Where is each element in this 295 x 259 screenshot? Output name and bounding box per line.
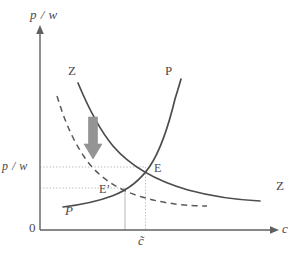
curve-label-p-bottom: P [65,204,73,217]
equilibrium-label-e: E [154,162,161,174]
curve-label-z-top: Z [68,64,76,77]
curve-label-p-top: P [165,64,172,77]
x-axis-title: c [282,222,288,235]
x-axis-arrowhead [270,226,279,234]
x-axis-tick-label: c̃ [138,234,144,247]
equilibrium-label-e-prime: E’ [99,183,110,195]
curve-p [63,79,181,207]
economics-diagram-figure: p / w c 0 p / w c̃ Z Z P P E E’ [0,0,295,259]
chart-canvas [0,0,295,259]
curve-label-z-right: Z [276,179,284,192]
shift-arrow-icon [84,117,102,159]
y-axis-arrowhead [36,25,44,34]
y-axis-title: p / w [30,8,58,21]
origin-label: 0 [29,221,36,234]
y-axis-tick-label: p / w [2,160,28,172]
